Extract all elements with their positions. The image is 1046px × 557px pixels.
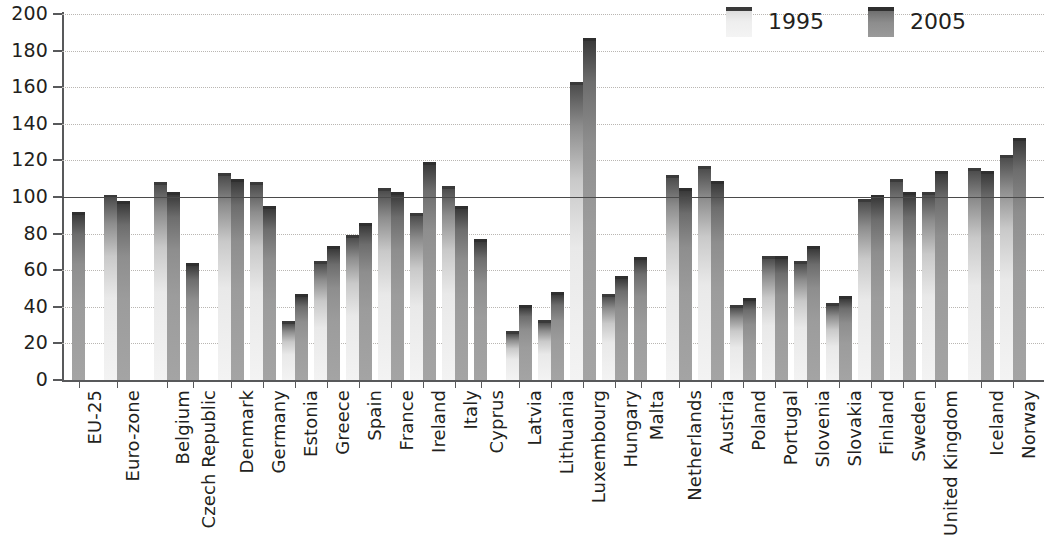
x-tick	[193, 381, 194, 388]
bar-chart: 1995 2005 020406080100120140160180200 EU…	[0, 0, 1046, 557]
bar-2005	[1013, 138, 1026, 380]
bar-1995	[858, 199, 871, 380]
x-tick	[551, 381, 552, 388]
bar-2005	[775, 256, 788, 380]
legend-item-1995: 1995	[726, 7, 824, 37]
x-tick	[519, 381, 520, 388]
bar-1995	[314, 261, 327, 380]
bar-2005	[679, 188, 692, 380]
legend-label-2005: 2005	[910, 11, 966, 33]
bar-1995	[794, 261, 807, 380]
x-axis-label-text: Malta	[648, 390, 666, 440]
bar-2005	[72, 212, 85, 380]
x-axis-label-text: Portugal	[782, 390, 800, 465]
bar-1995	[570, 82, 583, 380]
y-tick-label-0: 0	[0, 370, 48, 389]
x-tick	[615, 381, 616, 388]
y-tick-120	[53, 159, 62, 161]
x-tick	[641, 381, 642, 388]
bar-2005	[981, 171, 994, 380]
y-tick-180	[53, 50, 62, 52]
bar-2005	[615, 276, 628, 380]
y-tick-40	[53, 306, 62, 308]
bar-1995	[378, 188, 391, 380]
bar-2005	[455, 206, 468, 380]
bar-2005	[167, 192, 180, 380]
x-axis-label-text: Estonia	[302, 390, 320, 457]
y-tick-label-60: 60	[0, 260, 48, 279]
bar-1995	[218, 173, 231, 380]
x-tick	[481, 381, 482, 388]
bar-2005	[327, 246, 340, 380]
bar-2005	[935, 171, 948, 380]
y-tick-label-80: 80	[0, 224, 48, 243]
bar-2005	[263, 206, 276, 380]
bar-1995	[602, 294, 615, 380]
x-axis-label-text: France	[398, 390, 416, 450]
legend-swatch-1995	[726, 7, 752, 37]
y-tick-200	[53, 13, 62, 15]
x-axis-label-text: Iceland	[988, 390, 1006, 456]
y-tick-label-200: 200	[0, 4, 48, 23]
bar-2005	[117, 201, 130, 380]
bar-1995	[410, 213, 423, 380]
bar-1995	[698, 166, 711, 380]
x-axis-label-text: Germany	[270, 390, 288, 473]
x-tick	[231, 381, 232, 388]
x-tick	[391, 381, 392, 388]
x-axis-label-text: Netherlands	[686, 390, 704, 501]
bar-2005	[519, 305, 532, 380]
bar-1995	[1000, 155, 1013, 380]
x-axis-label-text: Latvia	[526, 390, 544, 445]
bar-1995	[442, 186, 455, 380]
x-axis-label-text: EU-25	[86, 390, 104, 444]
bar-2005	[634, 257, 647, 380]
bar-2005	[903, 192, 916, 380]
y-tick-100	[53, 196, 62, 198]
bar-2005	[743, 298, 756, 380]
x-axis-label-text: Cyprus	[488, 390, 506, 453]
x-axis-label-text: Ireland	[430, 390, 448, 453]
bar-2005	[391, 192, 404, 380]
bar-2005	[711, 181, 724, 380]
bar-2005	[583, 38, 596, 380]
x-axis-label-text: Spain	[366, 390, 384, 441]
y-tick-label-20: 20	[0, 333, 48, 352]
x-axis-label-text: Luxembourg	[590, 390, 608, 503]
bar-2005	[807, 246, 820, 380]
y-tick-20	[53, 342, 62, 344]
x-tick	[807, 381, 808, 388]
x-tick	[263, 381, 264, 388]
x-axis-label-text: Belgium	[174, 390, 192, 465]
bar-1995	[506, 331, 519, 380]
x-tick	[359, 381, 360, 388]
x-tick	[583, 381, 584, 388]
x-tick	[679, 381, 680, 388]
bar-1995	[250, 182, 263, 380]
y-tick-label-180: 180	[0, 41, 48, 60]
bar-1995	[762, 256, 775, 380]
x-tick	[327, 381, 328, 388]
x-axis-label-text: Czech Republic	[200, 390, 218, 528]
x-tick	[167, 381, 168, 388]
bar-1995	[890, 179, 903, 380]
y-tick-label-160: 160	[0, 77, 48, 96]
x-axis-label-text: Slovakia	[846, 390, 864, 466]
y-tick-80	[53, 233, 62, 235]
x-axis-label-text: Lithuania	[558, 390, 576, 474]
x-tick	[871, 381, 872, 388]
y-tick-60	[53, 269, 62, 271]
bar-1995	[104, 195, 117, 380]
x-axis-label-text: Euro-zone	[124, 390, 142, 481]
bar-2005	[423, 162, 436, 380]
bar-2005	[839, 296, 852, 380]
bar-2005	[474, 239, 487, 380]
bar-1995	[282, 321, 295, 380]
y-tick-140	[53, 123, 62, 125]
x-axis-label-text: Finland	[878, 390, 896, 455]
x-axis-label-text: Denmark	[238, 390, 256, 473]
plot-area	[62, 14, 1044, 380]
x-axis-line	[62, 380, 1044, 382]
chart-legend: 1995 2005	[726, 4, 1036, 40]
y-tick-label-100: 100	[0, 187, 48, 206]
